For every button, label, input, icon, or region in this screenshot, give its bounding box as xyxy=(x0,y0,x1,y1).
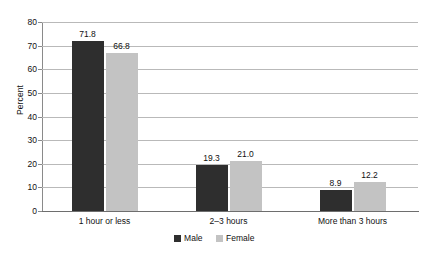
y-axis-tick-label: 30 xyxy=(7,136,37,145)
legend-label: Male xyxy=(184,234,202,243)
category-label: 1 hour or less xyxy=(45,216,165,226)
y-axis-tick-label: 80 xyxy=(7,18,37,27)
chart-legend: MaleFemale xyxy=(0,234,428,243)
y-axis-tick-mark xyxy=(38,211,42,212)
legend-item-male[interactable]: Male xyxy=(174,234,203,243)
category-label: 2–3 hours xyxy=(169,216,289,226)
bar xyxy=(320,190,352,211)
bar-value-label: 8.9 xyxy=(312,179,360,188)
bar xyxy=(72,41,104,211)
bar xyxy=(196,165,228,211)
bar-value-label: 21.0 xyxy=(222,150,270,159)
legend-label: Female xyxy=(226,234,254,243)
category-label: More than 3 hours xyxy=(293,216,413,226)
y-axis-tick-label: 70 xyxy=(7,42,37,51)
bar-value-label: 71.8 xyxy=(64,30,112,39)
bar-value-label: 12.2 xyxy=(346,171,394,180)
y-axis-tick-label: 40 xyxy=(7,113,37,122)
y-axis-tick-label: 60 xyxy=(7,65,37,74)
x-axis-line xyxy=(42,211,419,212)
y-axis-tick-label: 20 xyxy=(7,160,37,169)
y-axis-tick-label: 0 xyxy=(7,207,37,216)
bar xyxy=(230,161,262,211)
y-axis-tick-label: 10 xyxy=(7,183,37,192)
y-axis-tick-label: 50 xyxy=(7,89,37,98)
legend-item-female[interactable]: Female xyxy=(216,234,255,243)
bar xyxy=(106,53,138,211)
bar-chart: Percent 01020304050607080 71.866.819.321… xyxy=(0,0,428,265)
legend-swatch-icon xyxy=(216,235,223,242)
bar-value-label: 66.8 xyxy=(98,42,146,51)
gridline xyxy=(42,22,418,23)
legend-swatch-icon xyxy=(174,235,181,242)
